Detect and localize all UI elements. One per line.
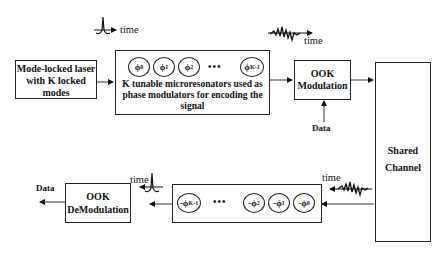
ook-modulation-block: OOK Modulation bbox=[294, 60, 351, 100]
data-output-label: Data bbox=[36, 183, 55, 193]
encoder-caption-line: signal bbox=[116, 101, 269, 112]
time-axis-label: time bbox=[304, 35, 323, 46]
noise-waveform-icon bbox=[330, 182, 372, 195]
ellipsis: ••• bbox=[208, 61, 222, 72]
encoder-caption-line: K tunable microresonators used as bbox=[116, 79, 269, 90]
time-axis-label: time bbox=[120, 24, 139, 35]
channel-label-line: Shared bbox=[376, 142, 430, 159]
microresonator-ring: ϕ0 bbox=[128, 57, 150, 77]
laser-label-line: Mode-locked laser bbox=[16, 63, 96, 75]
shared-channel-block: Shared Channel bbox=[375, 62, 431, 242]
pulse-waveform-icon bbox=[94, 17, 116, 34]
laser-label-line: modes bbox=[16, 87, 96, 99]
ook-demod-label-line: DeModulation bbox=[66, 203, 130, 216]
microresonator-ring: -ϕ1 bbox=[268, 193, 290, 213]
ook-demodulation-block: OOK DeModulation bbox=[65, 183, 131, 223]
mode-locked-laser-block: Mode-locked laser with K locked modes bbox=[15, 60, 97, 99]
microresonator-ring: ϕK-1 bbox=[240, 57, 264, 77]
ook-mod-label-line: Modulation bbox=[295, 80, 350, 92]
microresonator-ring: -ϕ2 bbox=[243, 193, 265, 213]
channel-label-line: Channel bbox=[376, 159, 430, 176]
ook-mod-label-line: OOK bbox=[295, 68, 350, 80]
data-input-label: Data bbox=[312, 123, 331, 133]
laser-label-line: with K locked bbox=[16, 75, 96, 87]
encoder-caption-line: phase modulators for encoding the bbox=[116, 90, 269, 101]
microresonator-encoder-block: ϕ0 ϕ1 ϕ2 ••• ϕK-1 K tunable microresonat… bbox=[115, 50, 270, 115]
time-axis-label: time bbox=[130, 174, 149, 185]
microresonator-ring: ϕ1 bbox=[153, 57, 175, 77]
microresonator-decoder-block: -ϕK-1 ••• -ϕ2 -ϕ1 -ϕ0 bbox=[172, 184, 322, 223]
ellipsis: ••• bbox=[213, 196, 227, 207]
time-axis-label: time bbox=[322, 172, 341, 183]
microresonator-ring: ϕ2 bbox=[178, 57, 200, 77]
ook-demod-label-line: OOK bbox=[66, 190, 130, 203]
microresonator-ring: -ϕK-1 bbox=[177, 193, 201, 213]
microresonator-ring: -ϕ0 bbox=[293, 193, 315, 213]
